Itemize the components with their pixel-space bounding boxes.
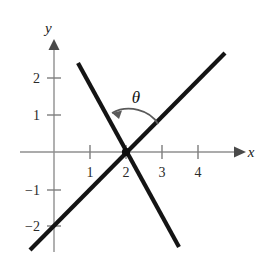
y-axis-label: y: [43, 20, 52, 36]
theta-label: θ: [132, 88, 140, 107]
angle-arc-group: [112, 109, 158, 124]
y-axis-arrow-icon: [49, 39, 60, 50]
x-axis-label: x: [247, 144, 255, 160]
x-tick-label-3: 3: [159, 165, 166, 180]
figure-canvas: y x 1 2 3 4 2 1 −1 −2 θ: [0, 0, 271, 268]
x-tick-label-2: 2: [123, 165, 130, 180]
y-tick-label-2: 2: [33, 71, 40, 86]
y-tick-label-neg2: −2: [25, 219, 40, 234]
y-tick-label-neg1: −1: [25, 183, 40, 198]
x-tick-label-4: 4: [195, 165, 202, 180]
y-tick-label-1: 1: [33, 108, 40, 123]
coordinate-plot: y x 1 2 3 4 2 1 −1 −2 θ: [0, 0, 271, 268]
x-axis-arrow-icon: [234, 147, 246, 158]
x-tick-label-1: 1: [87, 165, 94, 180]
intersection-point: [122, 148, 130, 156]
